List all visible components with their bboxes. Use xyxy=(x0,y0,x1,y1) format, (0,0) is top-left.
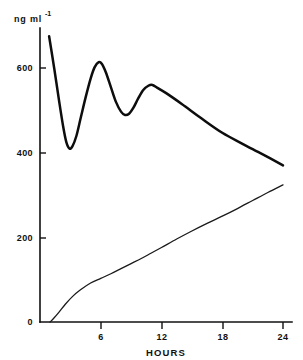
x-tick-label-18: 18 xyxy=(218,332,229,342)
x-axis-title: HOURS xyxy=(146,347,186,358)
y-axis-unit-text: ng ml xyxy=(14,14,42,24)
series-line-urinary-excretion xyxy=(50,185,283,322)
x-axis-tick-labels: 6 12 18 24 xyxy=(98,332,288,342)
y-tick-label-0: 0 xyxy=(28,317,33,327)
x-tick-label-24: 24 xyxy=(278,332,289,342)
series-line-plasma-concentration xyxy=(49,36,283,165)
y-tick-label-200: 200 xyxy=(17,233,33,243)
y-tick-label-600: 600 xyxy=(17,63,33,73)
x-tick-label-6: 6 xyxy=(98,332,103,342)
line-chart: ng ml -1 0 200 400 600 6 12 18 xyxy=(0,0,303,360)
axis-unit-label: ng ml -1 xyxy=(14,10,51,24)
y-tick-label-400: 400 xyxy=(17,148,33,158)
chart-container: ng ml -1 0 200 400 600 6 12 18 xyxy=(0,0,303,360)
y-axis-tick-labels: 0 200 400 600 xyxy=(17,63,33,327)
x-tick-label-12: 12 xyxy=(157,332,168,342)
y-axis-ticks xyxy=(40,68,46,238)
axes-group xyxy=(40,28,292,322)
y-axis-unit-exponent: -1 xyxy=(45,10,51,17)
x-axis-ticks xyxy=(101,322,283,329)
